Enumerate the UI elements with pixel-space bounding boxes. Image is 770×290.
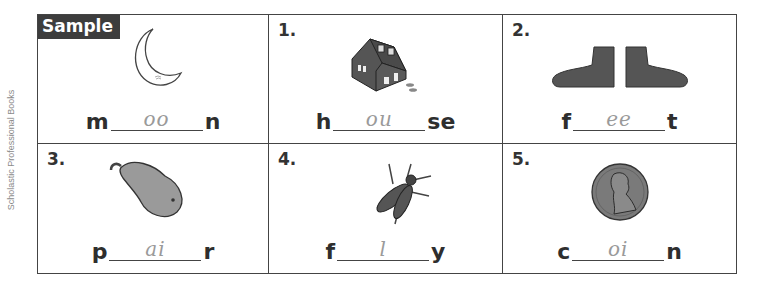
answer-blank[interactable]: oi [572,238,664,261]
answer-blank[interactable]: ou [333,108,425,131]
word-house: h ou se [269,108,502,133]
handwritten-answer: ee [573,109,665,129]
handwritten-answer: l [337,239,429,259]
handwritten-answer: oo [111,109,203,129]
word-suffix: t [667,111,678,133]
word-prefix: f [326,241,336,263]
worksheet-cell-5: 5. c oi n [503,144,736,273]
word-prefix: f [561,111,571,133]
worksheet-cell-4: 4. f l y [269,144,503,273]
handwritten-answer: ou [333,109,425,129]
word-prefix: p [92,241,108,263]
word-coin: c oi n [503,238,736,263]
word-prefix: h [316,111,332,133]
item-number: 1. [278,20,296,40]
feet-icon [550,43,690,91]
answer-blank[interactable]: oo [111,108,203,131]
word-fly: f l y [269,238,502,263]
fly-icon [367,158,437,228]
item-number: 4. [278,149,296,169]
word-feet: f ee t [503,108,736,133]
word-suffix: n [666,241,682,263]
worksheet-grid: Sample m oo n 1. h ou se [37,14,737,274]
sample-label: Sample [38,15,120,39]
worksheet-cell-3: 3. p ai r [38,144,269,273]
moon-icon [123,25,183,91]
pear-icon [103,154,203,220]
answer-blank[interactable]: ee [573,108,665,131]
word-pair: p ai r [38,238,268,263]
side-credit: Scholastic Professional Books [4,60,18,240]
word-prefix: c [557,241,570,263]
word-suffix: n [205,111,221,133]
handwritten-answer: oi [572,239,664,259]
word-moon: m oo n [38,108,268,133]
word-suffix: r [203,241,214,263]
house-icon [346,31,426,99]
worksheet-cell-1: 1. h ou se [269,15,503,144]
item-number: 5. [512,149,530,169]
item-number: 3. [47,149,65,169]
item-number: 2. [512,20,530,40]
answer-blank[interactable]: ai [109,238,201,261]
penny-coin-icon [590,162,650,222]
worksheet-cell-2: 2. f ee t [503,15,736,144]
worksheet-cell-sample: Sample m oo n [38,15,269,144]
side-credit-text: Scholastic Professional Books [6,90,16,211]
answer-blank[interactable]: l [337,238,429,261]
word-suffix: se [427,111,455,133]
word-suffix: y [431,241,445,263]
handwritten-answer: ai [109,239,201,259]
word-prefix: m [86,111,109,133]
